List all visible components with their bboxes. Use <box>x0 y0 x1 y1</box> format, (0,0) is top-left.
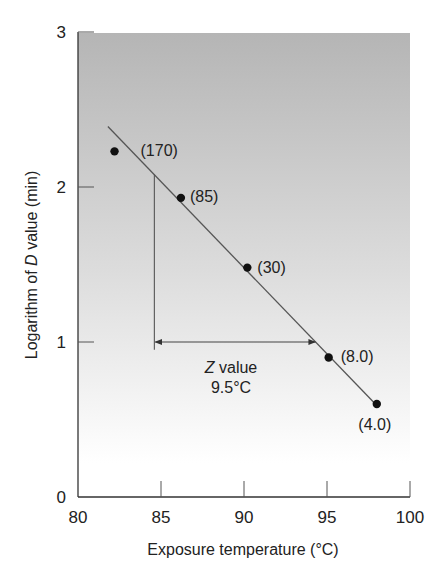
y-axis-label: Logarithm of D value (min) <box>23 171 40 360</box>
x-tick-label: 95 <box>318 508 337 527</box>
data-point-label: (8.0) <box>341 348 374 365</box>
z-value-label: Z value <box>204 359 258 376</box>
y-tick-label: 0 <box>57 488 66 507</box>
x-tick-label: 85 <box>152 508 171 527</box>
data-point-label: (170) <box>141 142 178 159</box>
x-tick-label: 100 <box>396 508 424 527</box>
z-value-chart: 808590951000123 (170)(85)(30)(8.0)(4.0) … <box>0 0 445 585</box>
x-tick-label: 80 <box>69 508 88 527</box>
x-axis-label: Exposure temperature (°C) <box>147 541 338 558</box>
data-point <box>177 194 185 202</box>
y-tick-label: 3 <box>57 23 66 42</box>
data-point <box>324 353 332 361</box>
data-point <box>373 400 381 408</box>
data-point <box>110 147 118 155</box>
z-value-number: 9.5°C <box>211 379 251 396</box>
data-point <box>243 263 251 271</box>
y-tick-label: 2 <box>57 178 66 197</box>
data-point-label: (30) <box>257 259 285 276</box>
plot-background <box>78 33 410 463</box>
x-tick-label: 90 <box>235 508 254 527</box>
data-point-label: (85) <box>190 188 218 205</box>
data-point-label: (4.0) <box>358 416 391 433</box>
y-tick-label: 1 <box>57 333 66 352</box>
